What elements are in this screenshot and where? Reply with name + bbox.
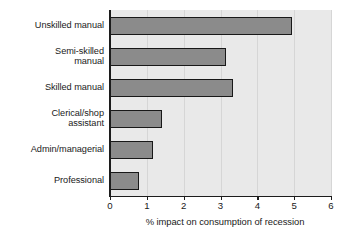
- bar: [110, 172, 139, 190]
- gridline: [257, 10, 258, 196]
- x-tick-label: 4: [247, 200, 267, 211]
- bar: [110, 17, 292, 35]
- gridline: [147, 10, 148, 196]
- category-label: Unskilled manual: [0, 20, 104, 31]
- x-axis-title: % impact on consumption of recession: [110, 216, 340, 227]
- x-tick-label: 2: [174, 200, 194, 211]
- x-tick-label: 0: [100, 200, 120, 211]
- x-tick-label: 3: [211, 200, 231, 211]
- gridline: [184, 10, 185, 196]
- bar-chart-figure: Unskilled manualSemi-skilledmanualSkille…: [0, 0, 350, 239]
- gridline: [331, 10, 332, 196]
- bar: [110, 48, 226, 66]
- category-label: Admin/managerial: [0, 144, 104, 155]
- gridline: [294, 10, 295, 196]
- x-tick-label: 6: [321, 200, 341, 211]
- y-axis-line: [109, 10, 111, 197]
- category-label: Professional: [0, 175, 104, 186]
- bar: [110, 141, 153, 159]
- bar: [110, 110, 162, 128]
- plot-area: [110, 10, 331, 196]
- x-tick-label: 5: [284, 200, 304, 211]
- category-label: Skilled manual: [0, 82, 104, 93]
- category-label: Clerical/shopassistant: [0, 108, 104, 129]
- bar: [110, 79, 233, 97]
- x-tick-label: 1: [137, 200, 157, 211]
- gridline: [221, 10, 222, 196]
- category-axis-labels: Unskilled manualSemi-skilledmanualSkille…: [0, 10, 104, 196]
- category-label: Semi-skilledmanual: [0, 46, 104, 67]
